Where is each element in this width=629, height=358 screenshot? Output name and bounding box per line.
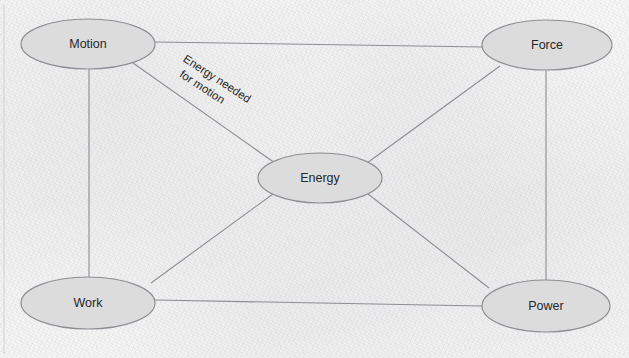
node-work-label: Work [74, 296, 104, 310]
edge-energy-power [368, 194, 489, 288]
edge-force-energy [367, 66, 500, 163]
node-energy-label: Energy [300, 171, 340, 185]
node-motion-label: Motion [69, 37, 107, 51]
node-power[interactable]: Power [482, 280, 610, 332]
node-energy[interactable]: Energy [258, 153, 382, 203]
edge-energy-work [151, 194, 273, 283]
node-power-label: Power [528, 299, 563, 313]
edge-motion-energy [133, 63, 275, 163]
node-force[interactable]: Force [482, 20, 612, 70]
node-force-label: Force [531, 38, 563, 52]
edge-label-energy-needed-for-motion: Energy needed for motion [173, 52, 253, 117]
node-motion[interactable]: Motion [21, 19, 155, 69]
node-work[interactable]: Work [21, 277, 155, 329]
concept-map-graph: Energy needed for motion Motion Force En… [0, 0, 629, 358]
edge-work-power [155, 300, 482, 306]
diagram-canvas: Energy needed for motion Motion Force En… [0, 0, 629, 358]
edge-motion-force [155, 42, 483, 47]
